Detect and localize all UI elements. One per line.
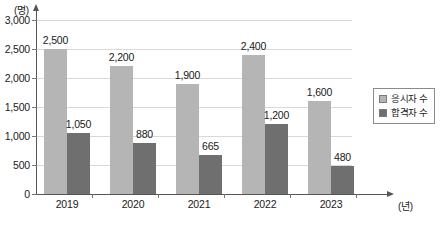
x-tick-mark (290, 194, 291, 198)
bar-value-label: 665 (191, 141, 231, 152)
x-tick-mark (224, 194, 225, 198)
y-tick-mark (32, 194, 37, 195)
y-tick: 500 (0, 160, 30, 170)
bar-2019-passers (67, 133, 90, 194)
x-tick-mark (158, 194, 159, 198)
y-tick-label: 1,000 (0, 131, 30, 141)
legend-label-passers: 합격자 수 (391, 108, 428, 118)
gridline (37, 20, 352, 21)
y-tick-label: 2,000 (0, 73, 30, 83)
x-tick-label-2019: 2019 (44, 199, 90, 210)
x-axis-unit-label: (년) (398, 198, 413, 213)
y-tick-mark (32, 107, 37, 108)
y-tick: 3,000 (0, 15, 30, 25)
legend-item-applicants: 응시자 수 (379, 93, 430, 105)
x-tick-label-2021: 2021 (176, 199, 222, 210)
bar-value-label: 1,050 (59, 119, 99, 130)
x-tick-label-2022: 2022 (242, 199, 288, 210)
y-tick-mark (32, 20, 37, 21)
y-tick-mark (32, 78, 37, 79)
gridline (37, 49, 352, 50)
bar-2022-passers (265, 124, 288, 194)
bar-value-label: 2,200 (102, 52, 142, 63)
y-tick-mark (32, 49, 37, 50)
x-tick-label-2020: 2020 (110, 199, 156, 210)
legend-label-applicants: 응시자 수 (391, 94, 428, 104)
legend-swatch-passers-icon (379, 109, 387, 117)
bar-value-label: 2,500 (36, 35, 76, 46)
y-tick-label: 2,500 (0, 44, 30, 54)
bar-value-label: 480 (323, 152, 363, 163)
y-tick-label: 500 (0, 160, 30, 170)
y-tick-label: 0 (0, 189, 30, 199)
bar-value-label: 2,400 (234, 41, 274, 52)
x-tick-mark (356, 194, 357, 198)
y-tick-mark (32, 165, 37, 166)
x-tick-label-2023: 2023 (308, 199, 354, 210)
legend-item-passers: 합격자 수 (379, 107, 430, 119)
y-tick-mark (32, 136, 37, 137)
bar-2023-applicants (308, 101, 331, 194)
x-tick-mark (92, 194, 93, 198)
bar-chart: (명) (년) 05001,0001,5002,0002,5003,000 2,… (0, 0, 441, 235)
chart-legend: 응시자 수 합격자 수 (373, 88, 435, 124)
y-tick-label: 3,000 (0, 15, 30, 25)
bar-value-label: 1,900 (168, 70, 208, 81)
y-tick: 2,000 (0, 73, 30, 83)
bar-value-label: 1,200 (257, 110, 297, 121)
y-tick: 0 (0, 189, 30, 199)
bar-2020-passers (133, 143, 156, 194)
y-tick: 1,000 (0, 131, 30, 141)
x-axis-line (36, 194, 388, 195)
x-axis-arrow-icon (387, 191, 394, 197)
y-tick: 2,500 (0, 44, 30, 54)
bar-2021-applicants (176, 84, 199, 194)
legend-swatch-applicants-icon (379, 95, 387, 103)
y-tick: 1,500 (0, 102, 30, 112)
bar-value-label: 1,600 (300, 87, 340, 98)
bar-value-label: 880 (125, 129, 165, 140)
bar-2023-passers (331, 166, 354, 194)
bar-2022-applicants (242, 55, 265, 194)
bar-2021-passers (199, 155, 222, 194)
y-tick-label: 1,500 (0, 102, 30, 112)
